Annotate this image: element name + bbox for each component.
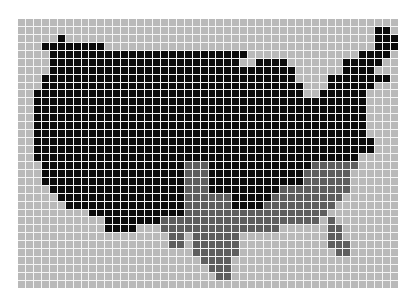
map-cell-empty <box>18 130 25 137</box>
map-cell-region-b <box>224 273 231 280</box>
map-cell-region-a <box>240 90 247 97</box>
map-cell-region-a <box>343 122 350 129</box>
map-cell-region-a <box>66 154 73 161</box>
map-cell-region-a <box>89 210 96 217</box>
map-cell-region-a <box>89 130 96 137</box>
map-cell-region-a <box>129 146 136 153</box>
map-cell-empty <box>391 257 398 264</box>
map-cell-region-a <box>272 83 279 90</box>
map-cell-region-a <box>256 106 263 113</box>
map-cell-empty <box>320 75 327 82</box>
map-cell-region-b <box>185 170 192 177</box>
map-cell-empty <box>272 257 279 264</box>
map-cell-region-a <box>359 114 366 121</box>
map-cell-empty <box>121 43 128 50</box>
map-cell-empty <box>248 257 255 264</box>
map-cell-empty <box>375 19 382 26</box>
map-cell-empty <box>359 281 366 288</box>
map-cell-empty <box>391 138 398 145</box>
map-cell-region-a <box>232 90 239 97</box>
map-cell-empty <box>129 281 136 288</box>
map-cell-region-b <box>201 178 208 185</box>
map-cell-region-b <box>272 194 279 201</box>
map-cell-region-a <box>201 146 208 153</box>
map-cell-empty <box>137 225 144 232</box>
map-cell-region-a <box>248 186 255 193</box>
map-cell-region-a <box>216 98 223 105</box>
map-cell-region-a <box>50 83 57 90</box>
map-cell-region-a <box>129 106 136 113</box>
map-cell-region-a <box>89 202 96 209</box>
map-cell-region-a <box>296 170 303 177</box>
map-cell-empty <box>26 35 33 42</box>
map-cell-empty <box>34 194 41 201</box>
map-cell-region-a <box>320 98 327 105</box>
map-cell-empty <box>26 106 33 113</box>
map-cell-empty <box>169 273 176 280</box>
map-cell-region-a <box>328 138 335 145</box>
map-cell-region-a <box>42 90 49 97</box>
map-cell-region-a <box>42 130 49 137</box>
map-cell-region-b <box>209 210 216 217</box>
map-cell-region-a <box>240 202 247 209</box>
map-cell-empty <box>97 27 104 34</box>
map-cell-region-a <box>58 67 65 74</box>
map-cell-region-b <box>328 217 335 224</box>
map-cell-region-a <box>177 146 184 153</box>
map-cell-region-a <box>105 162 112 169</box>
map-cell-empty <box>288 19 295 26</box>
map-cell-region-b <box>320 186 327 193</box>
map-cell-region-a <box>280 114 287 121</box>
map-cell-empty <box>288 51 295 58</box>
map-cell-region-a <box>177 75 184 82</box>
map-cell-empty <box>18 225 25 232</box>
map-cell-region-a <box>97 59 104 66</box>
map-cell-empty <box>391 75 398 82</box>
map-cell-region-a <box>66 83 73 90</box>
map-cell-empty <box>367 225 374 232</box>
map-cell-region-a <box>137 122 144 129</box>
map-cell-region-a <box>129 122 136 129</box>
map-cell-empty <box>304 67 311 74</box>
map-cell-empty <box>367 194 374 201</box>
map-cell-region-a <box>66 106 73 113</box>
map-cell-region-a <box>161 154 168 161</box>
map-cell-region-b <box>288 202 295 209</box>
map-cell-region-a <box>216 51 223 58</box>
map-cell-region-a <box>272 186 279 193</box>
map-cell-empty <box>367 43 374 50</box>
map-cell-region-a <box>240 51 247 58</box>
map-cell-empty <box>336 19 343 26</box>
map-cell-region-a <box>193 67 200 74</box>
map-cell-region-a <box>161 186 168 193</box>
map-cell-empty <box>58 265 65 272</box>
map-cell-empty <box>66 281 73 288</box>
map-cell-region-a <box>177 98 184 105</box>
map-cell-region-a <box>272 90 279 97</box>
map-cell-empty <box>383 146 390 153</box>
map-cell-region-a <box>280 106 287 113</box>
map-cell-region-a <box>169 138 176 145</box>
map-cell-empty <box>105 27 112 34</box>
map-cell-region-a <box>193 138 200 145</box>
map-cell-empty <box>224 27 231 34</box>
map-cell-empty <box>153 225 160 232</box>
map-cell-region-a <box>201 75 208 82</box>
map-cell-empty <box>18 43 25 50</box>
map-cell-region-a <box>304 138 311 145</box>
map-cell-empty <box>185 281 192 288</box>
map-cell-region-a <box>82 90 89 97</box>
map-cell-empty <box>18 249 25 256</box>
map-cell-empty <box>224 35 231 42</box>
map-cell-empty <box>26 186 33 193</box>
map-cell-region-a <box>153 138 160 145</box>
map-cell-region-a <box>161 114 168 121</box>
map-cell-empty <box>375 210 382 217</box>
map-cell-region-b <box>336 186 343 193</box>
map-cell-empty <box>224 281 231 288</box>
map-cell-empty <box>201 43 208 50</box>
map-cell-region-a <box>240 75 247 82</box>
map-cell-region-a <box>82 43 89 50</box>
map-cell-region-a <box>66 202 73 209</box>
map-cell-empty <box>74 27 81 34</box>
